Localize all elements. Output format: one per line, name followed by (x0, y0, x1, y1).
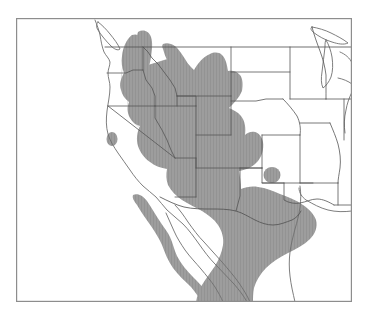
range-patch-oklahoma-panhandle (264, 167, 281, 183)
map-canvas (0, 0, 366, 316)
distribution-map-figure (0, 0, 366, 316)
range-patch-se-wyoming (207, 74, 221, 94)
